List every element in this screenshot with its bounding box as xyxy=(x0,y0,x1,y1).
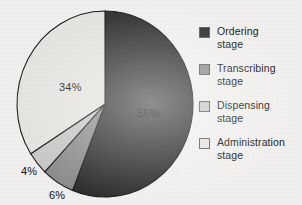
legend-item-ordering: Ordering stage xyxy=(199,25,300,50)
legend-swatch-dispensing xyxy=(199,101,210,112)
legend-label-dispensing: Dispensing stage xyxy=(217,99,270,124)
legend-label-administration-line2: stage xyxy=(217,149,285,162)
legend-label-ordering: Ordering stage xyxy=(217,25,259,50)
legend-label-transcribing: Transcribing stage xyxy=(217,62,276,87)
pie-chart-figure: 56% 34% 4% 6% Ordering stage Transcribin… xyxy=(0,0,302,205)
legend-label-transcribing-line2: stage xyxy=(217,75,276,88)
legend-swatch-administration xyxy=(199,138,210,149)
pie-label-administration: 34% xyxy=(59,81,82,93)
legend-label-ordering-line1: Ordering xyxy=(217,25,259,37)
legend-label-ordering-line2: stage xyxy=(217,38,259,51)
legend-label-administration: Administration stage xyxy=(217,136,285,161)
legend-label-administration-line1: Administration xyxy=(217,136,285,148)
pie-slice-group xyxy=(17,11,193,197)
legend-swatch-transcribing xyxy=(199,64,210,75)
legend-item-dispensing: Dispensing stage xyxy=(199,99,300,124)
pie-label-transcribing: 6% xyxy=(49,189,65,201)
pie-chart-plot-area: 56% 34% 4% 6% xyxy=(12,9,194,199)
legend-label-dispensing-line1: Dispensing xyxy=(217,99,270,111)
chart-legend: Ordering stage Transcribing stage Dispen… xyxy=(199,25,300,173)
legend-swatch-ordering xyxy=(199,27,210,38)
legend-label-dispensing-line2: stage xyxy=(217,112,270,125)
legend-item-administration: Administration stage xyxy=(199,136,300,161)
pie-label-dispensing: 4% xyxy=(21,165,37,177)
pie-label-ordering: 56% xyxy=(137,107,160,119)
pie-chart-svg xyxy=(12,9,194,199)
legend-label-transcribing-line1: Transcribing xyxy=(217,62,276,74)
legend-item-transcribing: Transcribing stage xyxy=(199,62,300,87)
